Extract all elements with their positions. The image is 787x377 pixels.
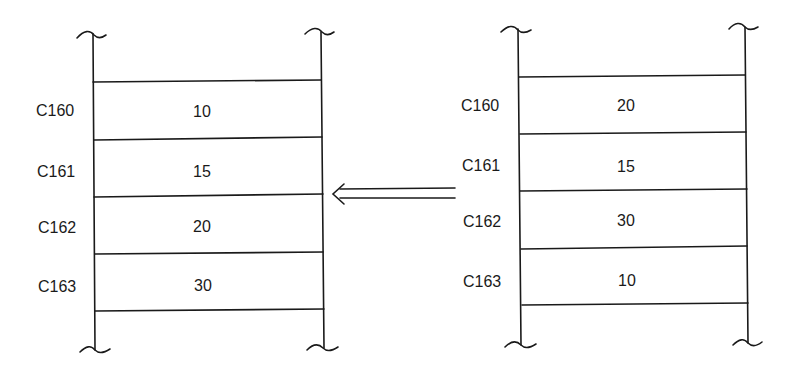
left-address-label: C162 bbox=[38, 219, 76, 237]
cell-divider bbox=[520, 189, 747, 191]
left-cell-value: 10 bbox=[172, 103, 232, 121]
break-mark-icon bbox=[305, 28, 334, 34]
cell-divider bbox=[522, 303, 748, 305]
break-mark-icon bbox=[501, 26, 531, 32]
break-mark-icon bbox=[307, 345, 338, 351]
cell-divider bbox=[94, 194, 323, 197]
double-arrow-left-icon bbox=[333, 184, 455, 204]
right-address-label: C163 bbox=[463, 273, 501, 291]
cell-divider bbox=[521, 246, 747, 249]
cell-divider bbox=[95, 252, 323, 254]
right-cell-value: 20 bbox=[596, 97, 656, 115]
left-address-label: C161 bbox=[37, 163, 75, 181]
left-cell-value: 20 bbox=[172, 218, 232, 236]
cell-divider bbox=[94, 137, 322, 140]
right-cell-value: 15 bbox=[596, 158, 656, 176]
cell-divider bbox=[95, 309, 324, 311]
right-cell-value: 30 bbox=[596, 212, 656, 230]
right-address-label: C161 bbox=[462, 157, 500, 175]
right-address-label: C162 bbox=[463, 213, 501, 231]
left-cell-value: 15 bbox=[172, 163, 232, 181]
right-cell-value: 10 bbox=[597, 272, 657, 290]
cell-divider bbox=[519, 75, 745, 77]
right-address-label: C160 bbox=[461, 97, 499, 115]
left-address-label: C160 bbox=[36, 102, 74, 120]
right-memory-block bbox=[501, 23, 762, 347]
break-mark-icon bbox=[729, 23, 758, 29]
break-mark-icon bbox=[77, 32, 106, 38]
left-address-label: C163 bbox=[38, 278, 76, 296]
diagram-canvas bbox=[0, 0, 787, 377]
left-memory-block bbox=[77, 28, 338, 352]
cell-divider bbox=[93, 80, 321, 82]
cell-divider bbox=[520, 132, 746, 134]
left-cell-value: 30 bbox=[173, 277, 233, 295]
